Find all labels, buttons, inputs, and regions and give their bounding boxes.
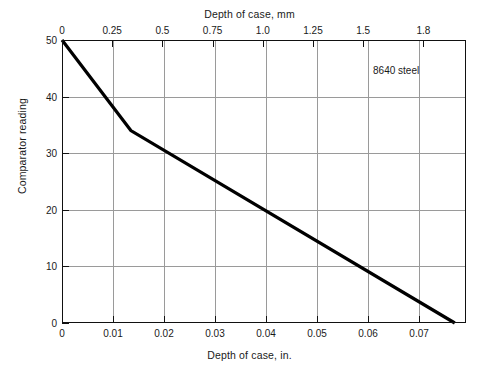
case-depth-chart-figure: Depth of case, mm Depth of case, in. Com…: [0, 0, 499, 372]
tick-label-left: 20: [46, 204, 57, 215]
tick-label-top: 0: [59, 25, 65, 36]
tick-label-left: 10: [46, 261, 57, 272]
top-axis-title: Depth of case, mm: [0, 8, 499, 20]
tick-label-top: 0.75: [203, 25, 222, 36]
tick-label-bottom: 0.02: [154, 328, 173, 339]
tick-label-bottom: 0.05: [307, 328, 326, 339]
tick-label-top: 1.25: [303, 25, 322, 36]
plot-frame: [62, 40, 466, 323]
tick-label-left: 40: [46, 91, 57, 102]
tick-label-bottom: 0.03: [205, 328, 224, 339]
series-annotation-label: 8640 steel: [373, 65, 419, 76]
tick-label-bottom: 0: [59, 328, 65, 339]
tick-label-top: 0.25: [102, 25, 121, 36]
bottom-axis-title: Depth of case, in.: [0, 349, 499, 361]
tick-label-bottom: 0.04: [256, 328, 275, 339]
tick-label-top: 1.8: [416, 25, 430, 36]
tick-label-left: 30: [46, 148, 57, 159]
tick-label-bottom: 0.01: [103, 328, 122, 339]
y-axis-title: Comparator reading: [16, 76, 28, 216]
tick-mark-left: [62, 323, 69, 324]
plot-area: [62, 40, 466, 323]
tick-label-top: 1.5: [356, 25, 370, 36]
tick-label-bottom: 0.07: [409, 328, 428, 339]
tick-label-top: 1.0: [256, 25, 270, 36]
tick-label-left: 50: [46, 35, 57, 46]
tick-label-bottom: 0.06: [358, 328, 377, 339]
tick-label-top: 0.5: [155, 25, 169, 36]
tick-label-left: 0: [51, 318, 57, 329]
